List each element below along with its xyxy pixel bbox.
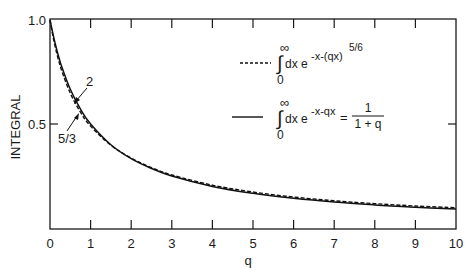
x-tick-label: 6 [290,236,297,251]
legend-solid-integral-sign: ∫ [276,107,284,130]
legend-dashed-integral-sign: ∫ [276,52,284,75]
annotation-label-2: 2 [86,74,93,89]
plot-frame [50,19,456,229]
legend-solid-exponent: -x-qx [311,105,336,117]
x-tick-label: 1 [87,236,94,251]
x-axis-tick-labels: 012345678910 [46,236,463,251]
legend-solid-lower-limit: 0 [277,128,284,142]
legend-dashed-integrand: dx e [285,57,308,71]
legend-solid-integrand: dx e [285,112,308,126]
chart: 012345678910 1.0 0.5 INTEGRAL q 2 5/3 ∞ … [0,0,472,268]
x-tick-label: 3 [168,236,175,251]
x-tick-label: 5 [249,236,256,251]
solid-curve-1-over-1-plus-q [50,20,456,209]
y-tick-label-1: 1.0 [28,13,46,28]
x-tick-label: 2 [128,236,135,251]
legend-solid-denominator: 1 + q [354,117,381,131]
annotation-label-5-3: 5/3 [58,131,76,146]
legend-solid-equals: = [340,110,348,125]
legend-dashed-exponent-power: 5/6 [349,42,363,53]
legend-dashed-entry: ∞ ∫ 0 dx e -x-(qx) 5/6 [240,40,363,87]
legend-dashed-exponent: -x-(qx) [311,50,343,62]
legend-solid-entry: ∞ ∫ 0 dx e -x-qx = 1 1 + q [232,95,384,142]
x-tick-label: 7 [331,236,338,251]
x-axis-title: q [244,253,251,268]
x-tick-label: 9 [412,236,419,251]
legend-dashed-lower-limit: 0 [277,73,284,87]
x-tick-label: 0 [46,236,53,251]
legend-solid-numerator: 1 [365,101,372,115]
x-tick-label: 4 [209,236,216,251]
y-tick-label-0-5: 0.5 [28,117,46,132]
x-tick-label: 8 [371,236,378,251]
y-axis-title: INTEGRAL [8,94,23,159]
x-tick-label: 10 [449,236,463,251]
dashed-curve-5-6-power [50,20,456,208]
